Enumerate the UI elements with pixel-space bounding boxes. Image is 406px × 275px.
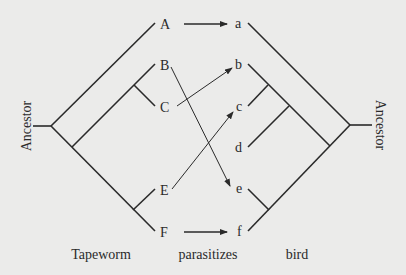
arrow-E-to-c bbox=[172, 112, 233, 189]
diagram-canvas: A B C E F a b c d e f Ancestor Ancestor … bbox=[0, 0, 406, 275]
branch-to-E bbox=[133, 189, 155, 210]
tip-label-f: f bbox=[237, 224, 242, 239]
tapeworm-tree bbox=[33, 23, 155, 231]
parasitism-arrows bbox=[171, 24, 233, 232]
parasitizes-caption: parasitizes bbox=[178, 247, 237, 262]
branch-to-a bbox=[248, 23, 350, 125]
tapeworm-caption: Tapeworm bbox=[71, 247, 131, 262]
bird-caption: bird bbox=[286, 247, 309, 262]
branch-to-c bbox=[248, 85, 268, 106]
tip-label-e: e bbox=[236, 181, 242, 196]
cophylogeny-diagram: A B C E F a b c d e f Ancestor Ancestor … bbox=[0, 0, 406, 275]
tip-label-b: b bbox=[235, 57, 242, 72]
tip-label-c: c bbox=[236, 99, 242, 114]
tip-label-B: B bbox=[160, 58, 169, 73]
right-ancestor-label: Ancestor bbox=[373, 100, 388, 151]
arrow-C-to-b bbox=[177, 68, 232, 106]
tip-label-A: A bbox=[160, 17, 171, 32]
tip-label-C: C bbox=[160, 100, 169, 115]
branch-root-to-f bbox=[248, 125, 350, 231]
left-ancestor-label: Ancestor bbox=[19, 100, 34, 151]
branch-to-A bbox=[51, 23, 155, 126]
tip-label-F: F bbox=[160, 225, 168, 240]
branch-to-d bbox=[248, 106, 289, 147]
branch-to-B bbox=[72, 64, 155, 147]
tip-label-E: E bbox=[160, 183, 169, 198]
branch-to-C bbox=[134, 85, 155, 106]
tip-label-a: a bbox=[235, 16, 242, 31]
branch-to-e bbox=[248, 189, 269, 210]
branch-root-to-F bbox=[51, 126, 155, 231]
bird-tree bbox=[248, 23, 372, 231]
tip-label-d: d bbox=[235, 140, 242, 155]
